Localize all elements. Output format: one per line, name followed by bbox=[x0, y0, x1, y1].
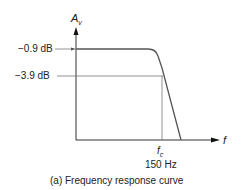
level-top-arrow-icon bbox=[71, 48, 76, 51]
response-curve bbox=[76, 49, 181, 140]
frequency-response-plot bbox=[0, 0, 250, 190]
fc-value: 150 Hz bbox=[145, 160, 177, 170]
y-axis-arrow-icon bbox=[74, 27, 79, 35]
level-top-label: −0.9 dB bbox=[18, 44, 53, 54]
x-axis-label: f bbox=[223, 135, 226, 145]
y-axis-label: Av bbox=[71, 13, 82, 28]
caption: (a) Frequency response curve bbox=[50, 176, 183, 186]
level-cut-label: −3.9 dB bbox=[15, 71, 50, 81]
fc-label: fc bbox=[157, 146, 163, 160]
x-axis-arrow-icon bbox=[211, 138, 220, 143]
